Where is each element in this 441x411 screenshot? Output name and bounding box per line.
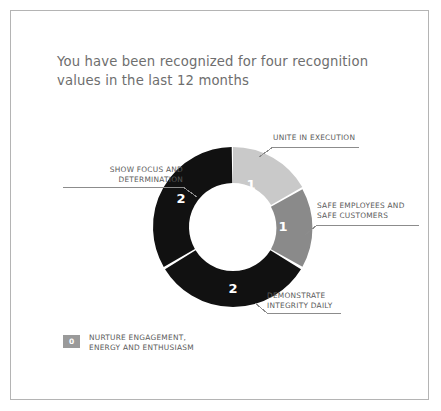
legend-swatch-nurture-engagement: 0 xyxy=(63,335,80,348)
label-safe-employees-and-safe-customers: SAFE EMPLOYEES AND SAFE CUSTOMERS xyxy=(317,201,417,221)
leader-line-unite-in-execution xyxy=(259,147,359,157)
slice-value-unite-in-execution: 1 xyxy=(241,176,261,194)
slice-value-show-focus: 2 xyxy=(171,190,191,208)
label-show-focus-and-determination: SHOW FOCUS AND DETERMINATION xyxy=(63,165,183,185)
leader-line-safe-employees xyxy=(305,225,419,235)
label-unite-in-execution: UNITE IN EXECUTION xyxy=(273,133,383,143)
label-demonstrate-integrity-daily: DEMONSTRATE INTEGRITY DAILY xyxy=(267,291,367,311)
legend: 0 NURTURE ENGAGEMENT, ENERGY AND ENTHUSI… xyxy=(63,333,194,353)
legend-label-nurture-engagement: NURTURE ENGAGEMENT, ENERGY AND ENTHUSIAS… xyxy=(89,333,194,353)
slice-value-demonstrate-integrity: 2 xyxy=(223,280,243,298)
recognition-card: You have been recognized for four recogn… xyxy=(10,10,429,400)
slice-value-safe-employees: 1 xyxy=(273,218,293,236)
